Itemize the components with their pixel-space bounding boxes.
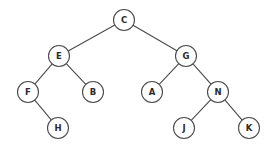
tree-node-k[interactable]: K — [239, 118, 260, 139]
tree-edge-f-h — [35, 100, 52, 120]
tree-node-j[interactable]: J — [174, 118, 195, 139]
node-label-h: H — [54, 123, 61, 133]
node-label-a: A — [149, 87, 156, 97]
tree-edge-c-e — [68, 25, 115, 51]
node-label-n: N — [214, 87, 221, 97]
node-label-e: E — [56, 51, 62, 61]
tree-node-b[interactable]: B — [83, 82, 104, 103]
node-label-c: C — [121, 15, 127, 25]
tree-node-n[interactable]: N — [208, 82, 229, 103]
tree-edge-n-j — [191, 100, 211, 121]
node-label-k: K — [246, 123, 253, 133]
tree-node-c[interactable]: C — [114, 10, 135, 31]
tree-edge-n-k — [225, 100, 242, 120]
edge-layer — [35, 25, 242, 120]
tree-edge-e-b — [66, 64, 86, 85]
node-label-f: F — [25, 87, 31, 97]
tree-node-g[interactable]: G — [176, 46, 197, 67]
tree-edge-g-a — [159, 64, 179, 85]
node-label-j: J — [181, 123, 185, 133]
tree-canvas: CEGFBANHJK — [0, 0, 275, 152]
binary-tree-diagram: CEGFBANHJK — [0, 0, 275, 152]
tree-node-e[interactable]: E — [49, 46, 70, 67]
node-label-g: G — [183, 51, 190, 61]
tree-edge-e-f — [35, 64, 52, 84]
tree-node-f[interactable]: F — [18, 82, 39, 103]
node-label-b: B — [90, 87, 96, 97]
tree-node-a[interactable]: A — [142, 82, 163, 103]
tree-edge-c-g — [133, 25, 177, 50]
tree-node-h[interactable]: H — [48, 118, 69, 139]
tree-edge-g-n — [193, 64, 211, 84]
